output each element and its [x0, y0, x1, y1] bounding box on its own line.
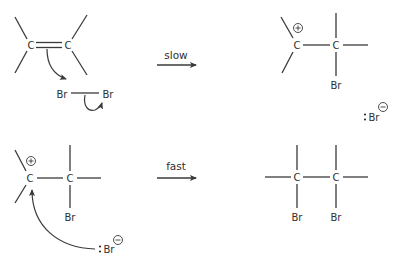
curved-arrow-icon — [32, 190, 95, 249]
bromine-atom: Br — [331, 80, 343, 91]
bromide-label: Br — [369, 112, 381, 123]
bond-line — [72, 15, 87, 39]
alkene-reactant: C C — [15, 15, 87, 79]
lone-pair-dot — [99, 250, 101, 252]
negative-charge-icon — [114, 236, 123, 245]
bond-line — [281, 17, 293, 38]
lone-pair-dot — [364, 113, 366, 115]
dibromide-product: C C Br Br — [265, 145, 368, 223]
carbon-atom: C — [294, 172, 301, 183]
bond-line — [72, 51, 87, 75]
fast-reaction-arrow: fast — [157, 160, 196, 178]
carbocation-intermediate: C C Br — [281, 13, 368, 91]
positive-charge-icon — [27, 157, 36, 166]
positive-charge-icon — [294, 24, 303, 33]
bromine-atom: Br — [103, 89, 115, 100]
bromide-ion: Br — [364, 103, 388, 123]
carbocation-carbon: C — [294, 40, 301, 51]
curved-arrow-icon — [47, 49, 66, 79]
reaction-mechanism-diagram: C C Br Br slow C C Br Br — [0, 0, 396, 259]
bromine-atom: Br — [65, 212, 77, 223]
curved-arrow-icon — [85, 95, 102, 110]
carbon-atom: C — [333, 40, 340, 51]
lone-pair-dot — [99, 245, 101, 247]
carbon-atom: C — [67, 173, 74, 184]
slow-reaction-arrow: slow — [157, 49, 196, 65]
bromide-ion-nucleophile: Br — [32, 190, 123, 255]
carbon-atom: C — [65, 40, 72, 51]
bond-line — [282, 52, 293, 73]
bond-line — [15, 51, 27, 73]
bromide-label: Br — [104, 244, 116, 255]
carbocation-reactant: C C Br — [15, 145, 101, 223]
bromine-atom: Br — [331, 212, 343, 223]
bond-line — [15, 185, 26, 203]
lone-pair-dot — [364, 118, 366, 120]
carbocation-carbon: C — [27, 173, 34, 184]
bromine-atom: Br — [57, 89, 69, 100]
carbon-atom: C — [28, 40, 35, 51]
bromine-atom: Br — [292, 212, 304, 223]
bond-line — [15, 150, 26, 171]
arrow-label-fast: fast — [166, 160, 186, 172]
arrow-label-slow: slow — [164, 49, 188, 61]
negative-charge-icon — [379, 103, 388, 112]
carbon-atom: C — [333, 172, 340, 183]
bromine-molecule: Br Br — [57, 89, 115, 111]
bond-line — [15, 17, 27, 39]
mechanism-canvas: C C Br Br slow C C Br Br — [0, 0, 396, 259]
